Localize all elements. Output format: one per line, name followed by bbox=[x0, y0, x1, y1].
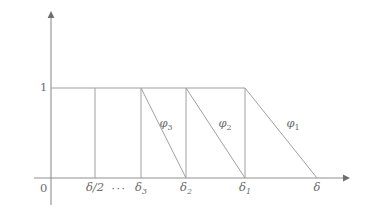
curve-label-phi-3-sub: 3 bbox=[167, 123, 172, 132]
x-tick-text-delta-3: δ bbox=[135, 180, 142, 194]
curve-label-phi-2-sub: 2 bbox=[226, 123, 231, 132]
x-tick-label-delta-3: δ3 bbox=[135, 182, 147, 196]
curve-label-phi-2-symbol: φ bbox=[218, 116, 226, 130]
curve-label-phi-3: φ3 bbox=[159, 118, 172, 132]
x-tick-label-delta-2: δ2 bbox=[180, 182, 192, 196]
x-tick-sub-delta-2: 2 bbox=[187, 187, 192, 196]
slope-phi-3 bbox=[141, 88, 186, 178]
x-tick-ellipsis: ··· bbox=[112, 184, 127, 195]
x-axis-arrow-icon bbox=[343, 175, 350, 182]
x-tick-sub-delta-3: 3 bbox=[142, 187, 147, 196]
y-axis-arrow-icon bbox=[48, 11, 55, 18]
slope-phi-1 bbox=[245, 88, 317, 178]
x-tick-text-delta-2: δ bbox=[180, 180, 187, 194]
x-tick-label-delta: δ bbox=[314, 182, 321, 194]
x-tick-label-delta-half: δ/2 bbox=[86, 182, 104, 194]
x-tick-label-delta-1: δ1 bbox=[239, 182, 251, 196]
curve-label-phi-1: φ1 bbox=[286, 118, 299, 132]
x-tick-text-delta-half: δ/2 bbox=[86, 180, 104, 194]
y-tick-label-1: 1 bbox=[40, 82, 47, 94]
curve-label-phi-1-sub: 1 bbox=[294, 123, 299, 132]
curve-label-phi-2: φ2 bbox=[218, 118, 231, 132]
x-tick-sub-delta-1: 1 bbox=[246, 187, 251, 196]
figure-container: 1 0 δ/2 ··· δ3 δ2 δ1 δ φ3 φ2 φ1 bbox=[0, 0, 365, 224]
curve-label-phi-1-symbol: φ bbox=[286, 116, 294, 130]
curve-label-phi-3-symbol: φ bbox=[159, 116, 167, 130]
x-tick-text-delta: δ bbox=[314, 180, 321, 194]
origin-label: 0 bbox=[40, 183, 47, 195]
slope-phi-2 bbox=[186, 88, 245, 178]
x-tick-text-delta-1: δ bbox=[239, 180, 246, 194]
